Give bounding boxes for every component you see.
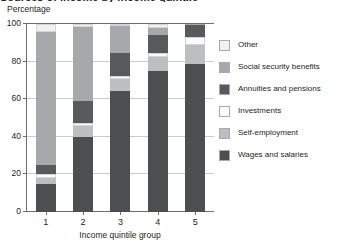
y-tick-label-80: 80 — [12, 57, 21, 65]
bar-segment-other[interactable] — [73, 24, 93, 27]
stacked-bar[interactable] — [148, 24, 168, 212]
bar-segment-annuities_and_pensions[interactable] — [110, 53, 130, 76]
bar-segment-other[interactable] — [110, 24, 130, 26]
legend-swatch-icon-annuities_and_pensions — [219, 84, 230, 95]
y-axis-label: Percentage — [7, 4, 50, 14]
legend-item-wages_and_salaries[interactable]: Wages and salaries — [219, 144, 337, 166]
bar-segment-annuities_and_pensions[interactable] — [73, 101, 93, 123]
bar-segment-social_security_benefits[interactable] — [110, 26, 130, 53]
legend-label: Self-employment — [238, 128, 298, 138]
stacked-bar[interactable] — [185, 24, 205, 212]
stacked-bar[interactable] — [73, 24, 93, 212]
x-tick-mark-2 — [83, 212, 84, 215]
bar-group-3[interactable]: 3 — [102, 24, 139, 212]
stacked-bar[interactable] — [36, 24, 56, 212]
bar-segment-investments[interactable] — [36, 174, 56, 178]
y-tick-label-0: 0 — [16, 207, 21, 215]
legend-item-social_security_benefits[interactable]: Social security benefits — [219, 56, 337, 78]
legend-swatch-icon-self_employment — [219, 128, 230, 139]
plot-area: 020406080100 12345 — [26, 24, 214, 212]
bar-segment-self_employment[interactable] — [185, 45, 205, 65]
bar-series-group: 12345 — [27, 24, 214, 212]
bar-segment-investments[interactable] — [110, 76, 130, 79]
x-axis-label: Income quintile group — [26, 230, 214, 240]
legend-swatch-icon-investments — [219, 106, 230, 117]
bar-segment-wages_and_salaries[interactable] — [36, 184, 56, 212]
bar-segment-other[interactable] — [36, 24, 56, 32]
legend-label: Annuities and pensions — [238, 84, 321, 94]
stacked-bar[interactable] — [110, 24, 130, 212]
bar-segment-wages_and_salaries[interactable] — [110, 91, 130, 212]
legend-item-self_employment[interactable]: Self-employment — [219, 122, 337, 144]
bar-segment-self_employment[interactable] — [36, 178, 56, 184]
legend-item-investments[interactable]: Investments — [219, 100, 337, 122]
bar-segment-wages_and_salaries[interactable] — [148, 71, 168, 212]
x-tick-label-4: 4 — [155, 217, 160, 227]
y-tick-label-60: 60 — [12, 94, 21, 102]
legend-swatch-icon-social_security_benefits — [219, 62, 230, 73]
y-tick-label-40: 40 — [12, 132, 21, 140]
legend-label: Social security benefits — [238, 62, 320, 72]
bar-segment-annuities_and_pensions[interactable] — [148, 35, 168, 53]
bar-segment-social_security_benefits[interactable] — [148, 28, 168, 36]
legend-item-other[interactable]: Other — [219, 34, 337, 56]
bar-segment-investments[interactable] — [148, 53, 168, 57]
x-tick-mark-5 — [195, 212, 196, 215]
legend-label: Other — [238, 40, 258, 50]
y-tick-label-20: 20 — [12, 169, 21, 177]
x-tick-mark-1 — [46, 212, 47, 215]
x-tick-label-3: 3 — [118, 217, 123, 227]
legend-swatch-icon-wages_and_salaries — [219, 150, 230, 161]
x-tick-label-2: 2 — [81, 217, 86, 227]
x-tick-label-5: 5 — [193, 217, 198, 227]
bar-segment-annuities_and_pensions[interactable] — [185, 25, 205, 37]
bar-segment-wages_and_salaries[interactable] — [185, 64, 205, 212]
bar-segment-social_security_benefits[interactable] — [185, 24, 205, 25]
bar-segment-other[interactable] — [148, 24, 168, 28]
bar-segment-wages_and_salaries[interactable] — [73, 137, 93, 212]
legend-item-annuities_and_pensions[interactable]: Annuities and pensions — [219, 78, 337, 100]
bar-group-4[interactable]: 4 — [139, 24, 176, 212]
x-tick-label-1: 1 — [43, 217, 48, 227]
bar-segment-annuities_and_pensions[interactable] — [36, 165, 56, 174]
y-tick-label-100: 100 — [7, 19, 21, 27]
x-tick-mark-3 — [120, 212, 121, 215]
bar-segment-social_security_benefits[interactable] — [36, 32, 56, 165]
bar-segment-investments[interactable] — [73, 123, 93, 126]
bar-segment-investments[interactable] — [185, 37, 205, 45]
legend-swatch-icon-other — [219, 40, 230, 51]
bar-group-5[interactable]: 5 — [177, 24, 214, 212]
page-title: Sources of income by income quintile gro… — [0, 0, 200, 2]
bar-segment-self_employment[interactable] — [148, 57, 168, 71]
bar-segment-self_employment[interactable] — [73, 126, 93, 137]
bar-group-2[interactable]: 2 — [64, 24, 101, 212]
x-tick-mark-4 — [158, 212, 159, 215]
legend-label: Wages and salaries — [238, 150, 308, 160]
bar-group-1[interactable]: 1 — [27, 24, 64, 212]
legend: OtherSocial security benefitsAnnuities a… — [219, 34, 337, 166]
bar-segment-self_employment[interactable] — [110, 79, 130, 91]
legend-label: Investments — [238, 106, 281, 116]
bar-segment-social_security_benefits[interactable] — [73, 27, 93, 101]
